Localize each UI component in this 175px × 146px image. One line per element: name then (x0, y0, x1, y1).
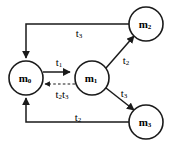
edge-m1-to-m3: t3 (106, 87, 134, 110)
edge-label-m1-to-m0: t2t3 (55, 88, 69, 101)
edge-label-m1-to-m3-sub: 3 (124, 92, 128, 100)
edge-label-m3-to-m0-sub: 2 (78, 116, 82, 124)
node-m2-base: m (139, 18, 148, 30)
edge-m1-to-m2: t2 (106, 36, 134, 68)
edge-label-m1-to-m2-sub: 2 (126, 59, 130, 67)
edge-m2-to-m0: t3 (26, 24, 129, 58)
edge-label-m1-to-m3: t3 (121, 87, 128, 100)
node-m0-sub: 0 (28, 77, 32, 85)
edge-label-m1-to-m2: t2 (123, 54, 130, 67)
node-m3[interactable]: m3 (129, 105, 163, 139)
diagram-canvas: t3 t2 t2 t3 t1 t2t3 m0 (0, 0, 175, 146)
node-m0[interactable]: m0 (9, 61, 43, 95)
edge-label-m2-to-m0: t3 (76, 27, 83, 40)
node-m1-base: m (85, 72, 94, 84)
edge-label-m0-to-m1: t1 (56, 56, 63, 69)
edge-m1-to-m2-line (106, 36, 134, 68)
node-m1-sub: 1 (94, 77, 98, 85)
edge-label-m1-to-m0-sub2: 3 (65, 93, 69, 101)
state-transition-diagram: t3 t2 t2 t3 t1 t2t3 m0 (0, 0, 175, 146)
edge-m3-to-m0: t2 (26, 98, 129, 124)
edge-m1-to-m0: t2t3 (45, 84, 75, 101)
edge-label-m2-to-m0-sub: 3 (79, 32, 83, 40)
node-m2-sub: 2 (148, 23, 152, 31)
node-m1[interactable]: m1 (75, 61, 109, 95)
node-m3-base: m (139, 116, 148, 128)
node-m0-base: m (19, 72, 28, 84)
node-m3-sub: 3 (148, 121, 152, 129)
node-m2[interactable]: m2 (129, 7, 163, 41)
edge-label-m3-to-m0: t2 (75, 111, 82, 124)
edge-label-m0-to-m1-sub: 1 (59, 61, 63, 69)
edge-m0-to-m1: t1 (43, 56, 70, 72)
